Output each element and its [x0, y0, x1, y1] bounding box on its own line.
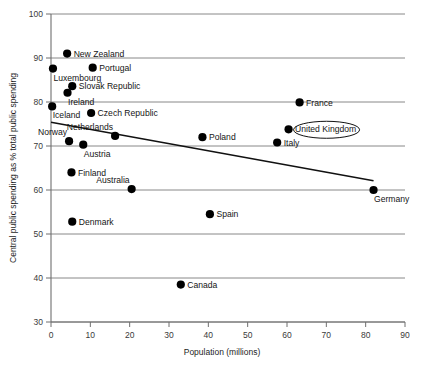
- x-tick-label-50: 50: [243, 330, 253, 340]
- data-point-labels: IcelandLuxembourgNew ZealandIrelandNorwa…: [38, 49, 410, 290]
- y-tick-marks: [46, 14, 51, 322]
- plot-area: 30405060708090100 0102030405060708090 Ic…: [0, 0, 421, 373]
- data-point-luxembourg: [49, 64, 57, 72]
- x-tick-label-0: 0: [49, 330, 54, 340]
- data-label-iceland: Iceland: [53, 110, 81, 120]
- data-point-czech-republic: [87, 109, 95, 117]
- data-label-czech-republic: Czech Republic: [98, 108, 159, 118]
- data-point-portugal: [89, 64, 97, 72]
- data-label-italy: Italy: [284, 138, 300, 148]
- y-tick-label-60: 60: [34, 185, 44, 195]
- data-point-slovak-republic: [68, 82, 76, 90]
- data-label-france: France: [306, 98, 333, 108]
- x-tick-label-20: 20: [125, 330, 135, 340]
- data-point-spain: [206, 210, 214, 218]
- x-tick-label-90: 90: [400, 330, 410, 340]
- data-point-norway: [65, 137, 73, 145]
- data-point-finland: [67, 168, 75, 176]
- data-label-canada: Canada: [187, 280, 217, 290]
- x-tick-labels: 0102030405060708090: [49, 330, 410, 340]
- x-tick-label-30: 30: [164, 330, 174, 340]
- y-axis-title: Central public spending as % total publi…: [8, 73, 18, 263]
- y-tick-label-40: 40: [34, 273, 44, 283]
- data-label-spain: Spain: [216, 209, 238, 219]
- x-tick-label-10: 10: [86, 330, 96, 340]
- y-tick-label-50: 50: [34, 229, 44, 239]
- data-label-netherlands: Netherlands: [67, 122, 113, 132]
- data-label-new-zealand: New Zealand: [74, 49, 125, 59]
- y-tick-label-30: 30: [34, 317, 44, 327]
- x-tick-label-40: 40: [204, 330, 214, 340]
- data-label-slovak-republic: Slovak Republic: [79, 81, 141, 91]
- data-point-ireland: [63, 89, 71, 97]
- data-point-netherlands: [111, 132, 119, 140]
- y-tick-label-90: 90: [34, 53, 44, 63]
- x-tick-label-60: 60: [282, 330, 292, 340]
- data-point-austria: [79, 141, 87, 149]
- data-point-poland: [198, 133, 206, 141]
- scatter-chart: 30405060708090100 0102030405060708090 Ic…: [0, 0, 421, 373]
- data-point-australia: [128, 185, 136, 193]
- data-label-austria: Austria: [84, 149, 111, 159]
- x-tick-marks: [51, 322, 405, 327]
- data-label-ireland: Ireland: [68, 97, 94, 107]
- y-tick-labels: 30405060708090100: [29, 9, 43, 327]
- x-tick-label-80: 80: [361, 330, 371, 340]
- data-label-denmark: Denmark: [79, 217, 115, 227]
- x-tick-label-70: 70: [322, 330, 332, 340]
- y-tick-label-70: 70: [34, 141, 44, 151]
- data-label-portugal: Portugal: [99, 63, 131, 73]
- data-label-germany: Germany: [374, 194, 410, 204]
- data-point-italy: [273, 138, 281, 146]
- data-point-denmark: [68, 218, 76, 226]
- data-label-australia: Australia: [96, 175, 130, 185]
- y-tick-label-80: 80: [34, 97, 44, 107]
- data-point-france: [295, 98, 303, 106]
- data-point-new-zealand: [63, 50, 71, 58]
- data-label-united-kingdom: United Kingdom: [295, 124, 356, 134]
- data-point-germany: [369, 186, 377, 194]
- y-tick-label-100: 100: [29, 9, 43, 19]
- data-point-canada: [177, 281, 185, 289]
- data-label-norway: Norway: [38, 127, 68, 137]
- x-axis-title: Population (millions): [184, 347, 261, 357]
- data-point-united-kingdom: [284, 125, 292, 133]
- data-point-iceland: [48, 102, 56, 110]
- data-label-poland: Poland: [209, 132, 236, 142]
